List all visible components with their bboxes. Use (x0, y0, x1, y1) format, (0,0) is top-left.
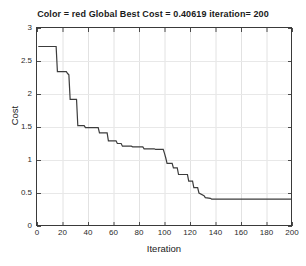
gridlines-group (37, 28, 292, 226)
x-tick-label: 120 (177, 228, 203, 237)
y-tick-label: 3 (6, 23, 32, 32)
y-tick-label: 0.5 (6, 188, 32, 197)
figure-canvas: Color = red Global Best Cost = 0.40619 i… (0, 0, 306, 266)
y-tick-label: 2 (6, 89, 32, 98)
y-tick-label: 1.5 (6, 122, 32, 131)
x-tick-label: 180 (254, 228, 280, 237)
plot-frame (37, 28, 292, 226)
x-tick-label: 40 (75, 228, 101, 237)
x-tick-label: 160 (228, 228, 254, 237)
x-tick-label: 20 (50, 228, 76, 237)
x-tick-label: 100 (152, 228, 178, 237)
plot-area (0, 0, 306, 266)
y-tick-label: 2.5 (6, 56, 32, 65)
x-tick-label: 60 (101, 228, 127, 237)
x-tick-label: 140 (203, 228, 229, 237)
x-tick-label: 200 (279, 228, 305, 237)
y-tick-label: 0 (6, 221, 32, 230)
x-axis-label: Iteration (36, 243, 292, 254)
x-tick-label: 80 (126, 228, 152, 237)
y-tick-label: 1 (6, 155, 32, 164)
